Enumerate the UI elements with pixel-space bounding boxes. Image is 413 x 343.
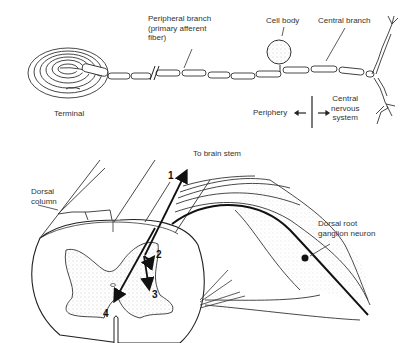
- neuron-diagram: Peripheral branch (primary afferent fibe…: [0, 0, 413, 343]
- diagram-drawing: [0, 0, 413, 343]
- label-dorsal-column: Dorsal column: [31, 187, 57, 206]
- peripheral-leader: [184, 49, 192, 68]
- terminal-brace: [66, 88, 80, 89]
- label-terminal: Terminal: [54, 109, 84, 119]
- cell-body-leader: [282, 27, 284, 36]
- central-terminals: [372, 16, 398, 124]
- pathway-number-3: 3: [152, 289, 158, 300]
- drg-neuron-soma: [302, 255, 309, 262]
- axon: [60, 63, 374, 79]
- label-periphery: Periphery: [253, 108, 287, 118]
- central-branch-leader: [326, 28, 345, 61]
- spinal-cord: [32, 220, 204, 343]
- ventral-root-stippling: [205, 290, 240, 310]
- pathway-number-4: 4: [103, 308, 109, 319]
- pathway-number-2: 2: [156, 249, 162, 260]
- label-central-nervous-system: Central nervous system: [331, 94, 359, 123]
- ganglion-stippling: [232, 178, 370, 310]
- label-peripheral-branch: Peripheral branch (primary afferent fibe…: [148, 14, 211, 43]
- pathway-number-1: 1: [168, 170, 174, 181]
- label-drg-neuron: Dorsal root ganglion neuron: [318, 219, 375, 238]
- label-central-branch: Central branch: [318, 16, 370, 26]
- periphery-cns-divider: [295, 96, 329, 128]
- label-cell-body: Cell body: [266, 16, 299, 26]
- label-to-brain-stem: To brain stem: [193, 149, 241, 159]
